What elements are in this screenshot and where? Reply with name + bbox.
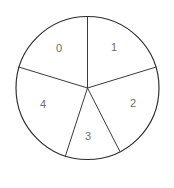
sector-label-3: 3 bbox=[85, 130, 91, 142]
sector-label-0: 0 bbox=[56, 42, 62, 54]
sector-label-1: 1 bbox=[111, 41, 117, 53]
pie-chart-svg: 0 1 2 3 4 bbox=[0, 0, 174, 188]
pie-chart-figure: 0 1 2 3 4 bbox=[0, 0, 174, 188]
sector-label-4: 4 bbox=[40, 98, 46, 110]
sector-label-2: 2 bbox=[130, 97, 136, 109]
